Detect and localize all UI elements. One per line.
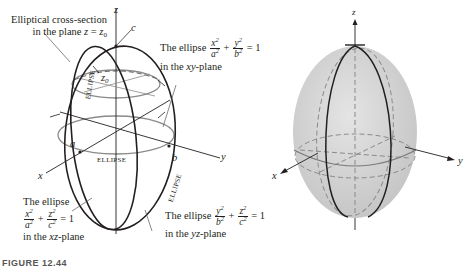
right-x-axis-label: x <box>272 170 277 182</box>
yz-ellipse-annotation: The ellipse y2b2 + z2c2 = 1 in the yz-pl… <box>165 206 265 240</box>
figure-caption: FIGURE 12.44 <box>2 258 67 268</box>
c-intercept-label: c <box>131 22 136 34</box>
cross-section-annotation: Elliptical cross-section in the plane z … <box>11 14 107 38</box>
x-axis-label: x <box>38 170 43 182</box>
z0-label: z0z0 <box>101 72 109 84</box>
xy-ellipse-annotation: The ellipse x2a2 + y2b2 = 1 in the xy-pl… <box>160 38 261 73</box>
a-intercept-label: a <box>70 138 75 150</box>
right-y-axis-label: y <box>458 155 463 167</box>
ellipse-label-xy: ELLIPSE <box>97 154 126 166</box>
z-axis-label: z <box>114 4 118 16</box>
b-intercept-label: b <box>172 152 177 164</box>
y-axis-label: y <box>221 151 226 163</box>
xz-ellipse-annotation: The ellipse x2a2 + z2c2 = 1 in the xz-pl… <box>23 196 84 243</box>
right-z-axis-label: z <box>352 6 356 18</box>
